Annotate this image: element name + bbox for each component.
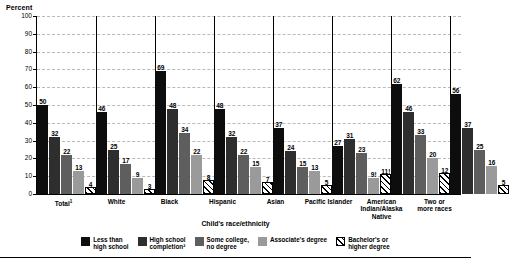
chart-legend: Less than high schoolHigh school complet… [0,236,471,255]
bar: 56 [450,94,461,194]
bar-value-label: 12 [441,166,448,173]
bar-value-label: 15 [252,160,259,167]
y-axis-tick-label: 20 [12,155,32,162]
bar: 48 [214,109,225,194]
bar: 5 [321,185,332,194]
y-axis-tick-label: 100 [12,13,32,20]
bar-value-label: 34 [181,126,188,133]
bar: 22 [61,155,72,194]
legend-swatch [138,237,147,246]
bar-value-label: 56 [452,87,459,94]
bar: 62 [391,84,402,194]
bar-value-label: 20 [429,151,436,158]
bar-value-label: 17 [122,156,129,163]
bar-value-label: 22 [63,147,70,154]
plot-area: 0102030405060708090100 50322213446251793… [36,16,461,195]
bar: 5 [498,185,509,194]
x-axis-title: Child's race/ethnicity [0,220,471,227]
bar: 9! [368,178,379,194]
bar-value-label: 37 [464,121,471,128]
bar: 31 [344,139,355,194]
bar-value-label: 11! [381,168,390,175]
bar-value-label: 69 [157,64,164,71]
y-axis-tick-label: 50 [12,102,32,109]
bar-group: 46251793 [96,16,155,194]
bar-value-label: 5 [502,179,506,186]
bar-value-label: 8 [207,173,211,180]
y-axis-tick-label: 10 [12,173,32,180]
bar-value-label: 32 [51,130,58,137]
bar-value-label: 9 [136,170,140,177]
bar: 13 [309,171,320,194]
bar: 24 [285,151,296,194]
bar: 15 [250,167,261,194]
bar-value-label: 7 [266,175,270,182]
y-axis-tick [33,194,37,195]
bar-group: 372415135 [273,16,332,194]
bar-group: 483222157 [214,16,273,194]
legend-swatch [336,237,345,246]
legend-item[interactable]: Associate's degree [258,236,327,246]
bar-value-label: 33 [417,128,424,135]
bar-value-label: 23 [358,146,365,153]
legend-item[interactable]: High school completion² [138,236,186,250]
bar: 8 [203,180,214,194]
y-axis-tick-label: 90 [12,31,32,38]
bar: 69 [155,71,166,194]
bar: 12 [439,173,450,194]
bar-value-label: 15 [299,160,306,167]
bar-value-label: 22 [240,147,247,154]
bar: 9 [132,178,143,194]
y-axis-tick-label: 0 [12,191,32,198]
bar: 4 [85,187,96,194]
bar-value-label: 27 [334,138,341,145]
bar-value-label: 32 [228,130,235,137]
y-axis-tick-label: 80 [12,49,32,56]
bar-value-label: 13 [75,163,82,170]
bar-value-label: 37 [275,121,282,128]
bar: 17 [120,164,131,194]
legend-swatch [258,237,267,246]
bar-value-label: 48 [216,101,223,108]
y-axis-tick-label: 60 [12,84,32,91]
legend-item[interactable]: Less than high school [81,236,128,250]
bar: 25 [108,150,119,195]
bar-value-label: 24 [287,144,294,151]
bar-value-label: 46 [405,105,412,112]
legend-swatch [81,237,90,246]
bar: 27 [332,146,343,194]
bar: 46 [403,112,414,194]
bar-value-label: 13 [311,163,318,170]
legend-label: High school completion² [150,236,186,250]
bar: 37 [462,128,473,194]
bar-group: 694834228 [155,16,214,194]
bar: 32 [226,137,237,194]
legend-label: Less than high school [93,236,128,250]
bar-group: 503222134 [37,16,96,194]
bar: 23 [356,153,367,194]
bar-value-label: 4 [89,180,93,187]
bar: 7 [262,182,273,194]
bar-value-label: 22 [193,147,200,154]
legend-item[interactable]: Bachelor's or higher degree [336,236,390,250]
bar-value-label: 5 [325,179,329,186]
bar-value-label: 31 [346,131,353,138]
bar-group: 6246332012 [391,16,450,194]
bar: 48 [167,109,178,194]
legend-item[interactable]: Some college, no degree [195,236,249,250]
y-axis-tick-label: 40 [12,120,32,127]
bar-value-label: 3 [148,182,152,189]
bar-group: 563725165 [450,16,509,194]
bar-value-label: 9! [371,170,377,177]
bar-value-label: 46 [98,105,105,112]
y-axis-tick-label: 70 [12,66,32,73]
x-axis-line [36,194,461,195]
bar: 20 [427,158,438,194]
bar-value-label: 16 [488,158,495,165]
bar-value-label: 62 [393,76,400,83]
bar-groups: 5032221344625179369483422848322215737241… [37,16,461,194]
bar-value-label: 25 [110,142,117,149]
bar: 50 [37,105,48,194]
bar: 37 [273,128,284,194]
bottom-divider [0,257,471,258]
